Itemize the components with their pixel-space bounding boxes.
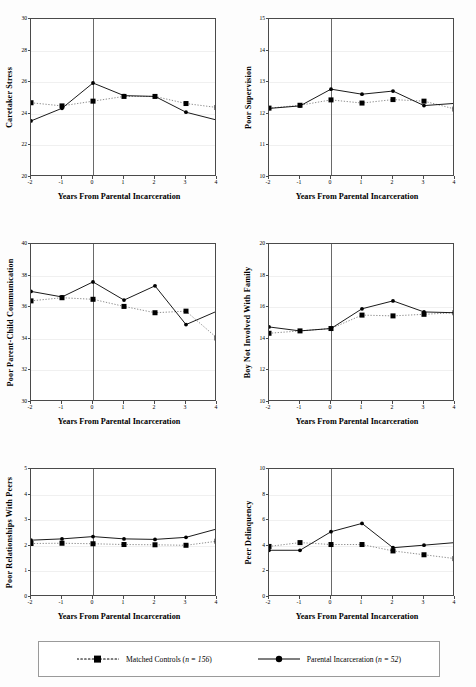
x-axis-tick-mark (61, 401, 62, 404)
x-axis-tick-label: 2 (153, 179, 156, 185)
y-axis-tick-mark (28, 18, 31, 19)
x-axis-tick-mark (454, 176, 455, 179)
x-axis-label-text: Years From Parental Incarceration (296, 417, 419, 426)
x-axis-tick-label: 3 (184, 179, 187, 185)
x-axis-tick-label: 0 (91, 404, 94, 410)
data-point-marker (91, 297, 96, 302)
chart-panel-poor-parent-child-communication: Poor Parent-Child Communication(n = 208;… (0, 225, 238, 450)
y-axis-tick-mark (28, 144, 31, 145)
y-axis-tick-mark (266, 50, 269, 51)
y-axis-tick-mark (28, 81, 31, 82)
y-axis-tick-label: 15 (259, 15, 265, 21)
plot-frame (30, 468, 216, 596)
y-axis-tick-label: 10 (259, 173, 265, 179)
plot-area: 303234363840-2-101234 (30, 243, 216, 401)
x-axis-tick-label: 2 (391, 599, 394, 605)
x-axis-tick-label: 4 (453, 599, 456, 605)
y-axis-tick-label: 34 (21, 335, 27, 341)
data-point-marker (215, 118, 216, 122)
data-point-marker (122, 542, 127, 547)
x-axis-label: Years From Parental Incarceration (0, 612, 238, 621)
x-axis-tick-label: 4 (453, 404, 456, 410)
x-axis-tick-label: 3 (422, 599, 425, 605)
x-axis-tick-mark (361, 176, 362, 179)
x-axis-tick-label: 2 (153, 599, 156, 605)
x-axis-tick-label: 4 (215, 404, 218, 410)
series-layer (269, 469, 454, 596)
y-axis-tick-mark (28, 243, 31, 244)
plot-area: 202224262830-2-101234 (30, 18, 216, 176)
x-axis-tick-label: 2 (391, 404, 394, 410)
y-axis-label-text: Poor Relationships With Peers (6, 476, 15, 587)
data-point-marker (91, 535, 95, 539)
series-line-parental-incarceration (31, 282, 216, 325)
data-point-marker (184, 309, 189, 314)
data-point-marker (184, 110, 188, 114)
data-point-marker (215, 539, 217, 544)
data-point-marker (360, 542, 365, 547)
data-point-marker (91, 541, 96, 546)
x-axis-label: Years From Parental Incarceration (238, 612, 476, 621)
data-point-marker (298, 540, 303, 545)
data-point-marker (215, 336, 217, 341)
y-axis-tick-label: 22 (21, 141, 27, 147)
y-axis-tick-mark (266, 243, 269, 244)
legend-label-parental-incarceration: Parental Incarceration (n = 52) (307, 655, 401, 664)
x-axis-tick-label: 1 (360, 599, 363, 605)
x-axis-tick-mark (92, 176, 93, 179)
x-axis-tick-label: -1 (59, 404, 64, 410)
x-axis-tick-label: -1 (297, 599, 302, 605)
data-point-marker (453, 101, 454, 105)
data-point-marker (391, 546, 395, 550)
x-axis-tick-mark (216, 401, 217, 404)
x-axis-tick-mark (185, 596, 186, 599)
x-axis-tick-mark (123, 596, 124, 599)
y-axis-tick-label: 14 (259, 335, 265, 341)
plot-frame (268, 468, 454, 596)
x-axis-tick-mark (61, 596, 62, 599)
data-point-marker (422, 543, 426, 547)
data-point-marker (329, 327, 333, 331)
plot-area: 012345-2-101234 (30, 468, 216, 596)
y-axis-tick-mark (28, 369, 31, 370)
y-axis-label-text: Boy Not Involved With Family (244, 266, 253, 378)
data-point-marker (153, 284, 157, 288)
data-point-marker (91, 280, 95, 284)
chart-panel-boy-not-involved-with-family: Boy Not Involved With Family(n = 208; ob… (238, 225, 476, 450)
y-axis-tick-label: 26 (21, 78, 27, 84)
data-point-marker (153, 95, 157, 99)
data-point-marker (268, 331, 272, 336)
x-axis-tick-mark (392, 401, 393, 404)
y-axis-tick-mark (28, 338, 31, 339)
x-axis-tick-mark (423, 176, 424, 179)
y-axis-tick-mark (28, 113, 31, 114)
x-axis-label: Years From Parental Incarceration (238, 417, 476, 426)
y-axis-tick-label: 24 (21, 110, 27, 116)
y-axis-label-text: Peer Delinquency (244, 500, 253, 564)
y-axis-tick-label: 28 (21, 47, 27, 53)
data-point-marker (122, 537, 126, 541)
y-axis-tick-label: 12 (259, 110, 265, 116)
y-axis-label: Caretaker Stress (2, 18, 18, 176)
dotted-line-square-marker-icon (77, 654, 119, 664)
data-point-marker (30, 298, 34, 303)
x-axis-tick-mark (268, 176, 269, 179)
x-axis-tick-mark (299, 176, 300, 179)
y-axis-tick-label: 14 (259, 47, 265, 53)
chart-panel-caretaker-stress: Caretaker Stress(n = 208; observations =… (0, 0, 238, 225)
x-axis-tick-label: 0 (91, 599, 94, 605)
y-axis-tick-label: 18 (259, 272, 265, 278)
x-axis-tick-label: 0 (329, 404, 332, 410)
x-axis-tick-label: -2 (28, 404, 33, 410)
data-point-marker (268, 325, 271, 329)
data-point-marker (360, 307, 364, 311)
data-point-marker (60, 106, 64, 110)
x-axis-tick-label: 3 (184, 404, 187, 410)
x-axis-tick-mark (123, 401, 124, 404)
data-point-marker (298, 329, 302, 333)
data-point-marker (184, 543, 189, 548)
x-axis-tick-mark (454, 596, 455, 599)
x-axis-tick-label: -2 (266, 599, 271, 605)
x-axis-tick-label: 4 (453, 179, 456, 185)
plot-area: 101112131415-2-101234 (268, 18, 454, 176)
